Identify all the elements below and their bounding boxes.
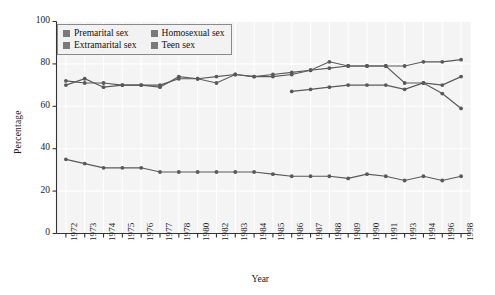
data-point-marker xyxy=(158,170,162,174)
data-point-marker xyxy=(252,75,256,79)
legend-swatch-icon xyxy=(151,30,158,37)
data-point-marker xyxy=(64,157,68,161)
data-point-marker xyxy=(290,90,294,94)
data-point-marker xyxy=(384,83,388,87)
data-point-marker xyxy=(120,83,124,87)
data-point-marker xyxy=(309,68,313,72)
y-tick-label: 0 xyxy=(20,227,50,237)
x-tick-label: 1985 xyxy=(276,222,286,240)
data-point-marker xyxy=(365,64,369,68)
data-point-marker xyxy=(309,174,313,178)
data-point-marker xyxy=(290,174,294,178)
chart-container: Percentage 020406080100 1972197319741975… xyxy=(0,0,495,295)
data-point-marker xyxy=(346,176,350,180)
x-tick-label: 1988 xyxy=(333,222,343,240)
data-point-marker xyxy=(384,64,388,68)
data-point-marker xyxy=(64,83,68,87)
y-tick-label: 40 xyxy=(20,142,50,152)
data-point-marker xyxy=(139,83,143,87)
x-axis-title: Year xyxy=(252,274,270,284)
data-point-marker xyxy=(252,170,256,174)
data-point-marker xyxy=(384,174,388,178)
x-tick-label: 1990 xyxy=(371,222,381,240)
data-point-marker xyxy=(139,166,143,170)
data-point-marker xyxy=(403,179,407,183)
legend-item-homosexual-sex: Homosexual sex xyxy=(151,28,225,39)
data-point-marker xyxy=(177,170,181,174)
data-point-marker xyxy=(64,79,68,83)
data-point-marker xyxy=(440,83,444,87)
legend-item-premarital-sex: Premarital sex xyxy=(63,28,137,39)
x-tick-label: 1993 xyxy=(408,222,418,240)
data-point-marker xyxy=(365,83,369,87)
data-point-marker xyxy=(102,85,106,89)
data-point-marker xyxy=(233,73,237,77)
x-tick-label: 1998 xyxy=(465,222,475,240)
data-point-marker xyxy=(83,77,87,81)
data-point-marker xyxy=(233,170,237,174)
data-point-marker xyxy=(327,85,331,89)
data-point-marker xyxy=(327,60,331,64)
data-point-marker xyxy=(83,162,87,166)
legend-label: Extramarital sex xyxy=(74,40,137,51)
legend-label: Homosexual sex xyxy=(162,28,225,39)
x-tick-label: 1975 xyxy=(126,222,136,240)
y-tick-label: 20 xyxy=(20,185,50,195)
x-tick-label: 1974 xyxy=(107,222,117,240)
x-tick-label: 1972 xyxy=(69,222,79,240)
data-point-marker xyxy=(102,81,106,85)
x-tick-label: 1987 xyxy=(314,222,324,240)
data-point-marker xyxy=(120,166,124,170)
data-point-marker xyxy=(459,174,463,178)
data-point-marker xyxy=(327,174,331,178)
x-tick-label: 1980 xyxy=(201,222,211,240)
data-point-marker xyxy=(102,166,106,170)
x-tick-label: 1986 xyxy=(295,222,305,240)
data-point-marker xyxy=(459,58,463,62)
data-point-marker xyxy=(196,77,200,81)
legend-label: Premarital sex xyxy=(74,28,129,39)
data-point-marker xyxy=(83,81,87,85)
data-point-marker xyxy=(365,172,369,176)
legend-swatch-icon xyxy=(63,30,70,37)
data-point-marker xyxy=(215,75,219,79)
data-point-marker xyxy=(422,81,426,85)
data-point-marker xyxy=(290,73,294,77)
x-tick-label: 1978 xyxy=(182,222,192,240)
data-point-marker xyxy=(440,179,444,183)
x-tick-label: 1991 xyxy=(389,222,399,240)
x-tick-label: 1989 xyxy=(352,222,362,240)
data-point-marker xyxy=(271,172,275,176)
data-point-marker xyxy=(422,60,426,64)
data-point-marker xyxy=(327,66,331,70)
data-point-marker xyxy=(346,64,350,68)
data-point-marker xyxy=(440,60,444,64)
data-point-marker xyxy=(158,83,162,87)
x-tick-label: 1976 xyxy=(145,222,155,240)
data-point-marker xyxy=(309,87,313,91)
data-point-marker xyxy=(215,81,219,85)
legend-swatch-icon xyxy=(63,42,70,49)
y-tick-label: 60 xyxy=(20,100,50,110)
legend-label: Teen sex xyxy=(162,40,195,51)
legend-item-teen-sex: Teen sex xyxy=(151,40,225,51)
x-tick-label: 1973 xyxy=(88,222,98,240)
x-tick-label: 1983 xyxy=(239,222,249,240)
x-tick-label: 1982 xyxy=(220,222,230,240)
x-tick-label: 1977 xyxy=(164,222,174,240)
data-point-marker xyxy=(177,77,181,81)
data-point-marker xyxy=(271,75,275,79)
x-tick-label: 1996 xyxy=(446,222,456,240)
data-point-marker xyxy=(403,87,407,91)
y-tick-label: 80 xyxy=(20,57,50,67)
data-point-marker xyxy=(459,107,463,111)
data-point-marker xyxy=(403,64,407,68)
data-point-marker xyxy=(459,75,463,79)
x-tick-label: 1994 xyxy=(427,222,437,240)
data-point-marker xyxy=(196,170,200,174)
data-point-marker xyxy=(346,83,350,87)
x-tick-label: 1984 xyxy=(258,222,268,240)
data-point-marker xyxy=(440,92,444,96)
data-point-marker xyxy=(403,81,407,85)
y-tick-label: 100 xyxy=(20,15,50,25)
